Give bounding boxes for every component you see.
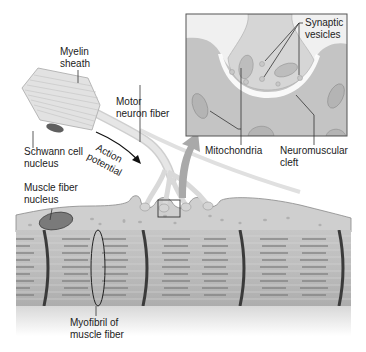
label-synaptic-vesicles: Synaptic vesicles [305, 17, 343, 40]
muscle-fiber [16, 230, 351, 306]
label-schwann-cell-nucleus: Schwann cell nucleus [24, 146, 83, 169]
diagram-artwork [0, 0, 366, 352]
label-myelin-sheath: Myelin sheath [60, 46, 90, 69]
label-muscle-fiber-nucleus: Muscle fiber nucleus [24, 182, 78, 205]
label-mitochondria: Mitochondria [205, 145, 262, 157]
muscle-shadow [16, 306, 351, 336]
label-myofibril: Myofibril of muscle fiber [70, 317, 124, 340]
label-neuromuscular-cleft: Neuromuscular cleft [280, 145, 348, 168]
label-motor-neuron-fiber: Motor neuron fiber [116, 96, 169, 119]
myelin-sheath [22, 68, 100, 130]
neuromuscular-junction-diagram: Myelin sheath Motor neuron fiber Schwann… [0, 0, 366, 352]
